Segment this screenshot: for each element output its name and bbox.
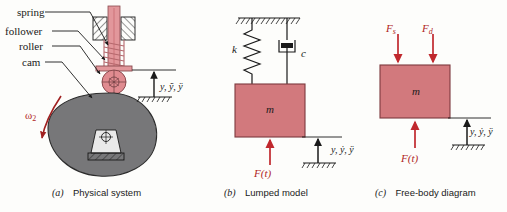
callout-cam-label: cam xyxy=(22,57,40,68)
roller xyxy=(102,70,126,94)
figure-root: spring follower roller cam ω2 y, ỹ, ÿ (a… xyxy=(0,0,507,212)
panel-c-mass-label: m xyxy=(412,86,420,97)
panel-c-force-label: F(t) xyxy=(401,153,418,164)
spring-force-subscript: s xyxy=(393,27,396,36)
spring-force-label: F xyxy=(386,22,393,34)
damper-force-label: F xyxy=(422,22,429,34)
panel-a-motion-label: y, ỹ, ÿ xyxy=(160,82,183,92)
panel-c-motion-label: y, ẏ, ÿ xyxy=(470,127,493,137)
panel-a-caption-letter: (a) xyxy=(52,187,64,198)
panel-b-caption-letter: (b) xyxy=(224,187,236,198)
panel-b-caption-text: Lumped model xyxy=(245,187,308,198)
callout-follower-label: follower xyxy=(5,26,42,37)
panel-a-caption: (a) Physical system xyxy=(52,188,141,198)
panel-b-mass-label: m xyxy=(266,104,274,115)
damper-element xyxy=(279,18,295,84)
panel-b-ceiling xyxy=(236,18,300,24)
callout-spring-label: spring xyxy=(17,7,45,18)
damper-force-label-group: Fd xyxy=(422,18,433,36)
omega-subscript: 2 xyxy=(32,114,36,123)
omega-label-group: ω2 xyxy=(25,105,36,123)
panel-c-caption-text: Free-body diagram xyxy=(395,187,475,198)
damping-constant-label: c xyxy=(301,48,306,59)
panel-b-graphic xyxy=(190,0,350,180)
callout-roller-label: roller xyxy=(19,41,43,52)
panel-a-caption-text: Physical system xyxy=(73,187,141,198)
spring-constant-label: k xyxy=(232,44,237,55)
panel-c-caption-letter: (c) xyxy=(375,187,386,198)
panel-b-force-label: F(t) xyxy=(254,168,271,179)
panel-c-caption: (c) Free-body diagram xyxy=(375,188,476,198)
spring-element xyxy=(244,18,260,84)
spring-force-label-group: Fs xyxy=(386,18,396,36)
panel-b-caption: (b) Lumped model xyxy=(224,188,308,198)
damper-force-subscript: d xyxy=(429,27,433,36)
